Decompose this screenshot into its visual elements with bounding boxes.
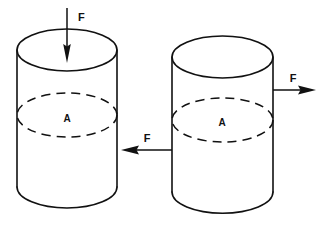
- right-cylinder-area-label: A: [218, 117, 225, 128]
- shear-force-arrow-left: F: [121, 132, 172, 154]
- right-cylinder-top-ellipse: [172, 36, 273, 78]
- right-cylinder-bottom-arc: [172, 192, 273, 213]
- shear-right-arrow-label: F: [290, 72, 297, 84]
- shear-left-arrow-head: [121, 146, 139, 155]
- shear-force-arrow-right: F: [273, 72, 316, 94]
- left-cylinder-bottom-arc: [17, 187, 117, 208]
- shear-left-arrow-label: F: [144, 132, 151, 144]
- compression-arrow-label: F: [78, 11, 85, 23]
- compression-force-arrow: F: [63, 8, 85, 63]
- diagram-canvas: A A F F F: [0, 0, 332, 226]
- right-cylinder: A: [172, 36, 273, 213]
- shear-right-arrow-head: [298, 86, 316, 95]
- left-cylinder-area-label: A: [63, 113, 70, 124]
- compression-arrow-head: [63, 44, 71, 63]
- stress-diagram-figure: A A F F F: [0, 0, 332, 226]
